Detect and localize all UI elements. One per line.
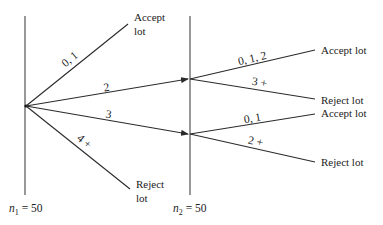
outcome-accept-first-line1: Accept [134, 11, 165, 23]
outcome-after3-accept: Accept lot [321, 107, 367, 119]
defects-label-0-1-second: 0, 1 [243, 111, 262, 127]
outcome-reject-first-line2: lot [136, 192, 148, 204]
defects-label-2: 2 [103, 81, 111, 94]
outcome-after2-reject: Reject lot [321, 94, 363, 106]
defects-label-0-1: 0, 1 [59, 49, 81, 70]
defects-label-0-1-2: 0, 1, 2 [237, 49, 268, 68]
sample-size-label-1: n1 = 50 [9, 202, 43, 217]
outcome-accept-first-line2: lot [134, 25, 146, 37]
outcome-after2-accept: Accept lot [321, 44, 367, 56]
branch-accept-first [26, 24, 128, 106]
sample-size-label-2: n2 = 50 [173, 202, 207, 217]
defects-label-3: 3 [105, 108, 113, 121]
outcome-reject-first-line1: Reject [136, 178, 164, 190]
branch-reject-first [26, 106, 130, 189]
defects-label-3-plus: 3 + [251, 75, 268, 89]
defects-label-2-plus: 2 + [247, 134, 264, 149]
sampling-plan-diagram: 0, 1 2 3 4 + Accept lot Reject lot 0, 1,… [0, 0, 383, 225]
outcome-after3-reject: Reject lot [321, 156, 363, 168]
